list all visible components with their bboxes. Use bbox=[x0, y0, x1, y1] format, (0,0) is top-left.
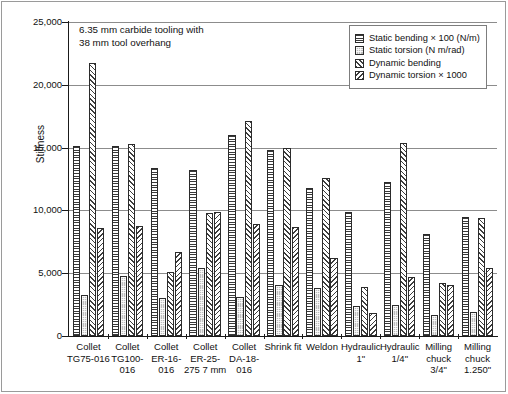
x-axis-tick bbox=[458, 334, 459, 339]
y-axis-tick bbox=[62, 336, 69, 337]
x-axis-tick bbox=[264, 334, 265, 339]
bar-group bbox=[302, 22, 341, 336]
x-axis-category-label-line: chuck bbox=[455, 353, 500, 365]
bar bbox=[462, 217, 469, 336]
bar bbox=[245, 121, 252, 336]
bar bbox=[198, 268, 205, 336]
bar bbox=[431, 315, 438, 336]
x-axis-tick bbox=[341, 334, 342, 339]
chart-legend: Static bending × 100 (N/m)Static torsion… bbox=[349, 25, 487, 89]
bar bbox=[447, 285, 454, 336]
bar-group bbox=[225, 22, 264, 336]
x-axis-tick bbox=[419, 334, 420, 339]
y-axis-tick-label: 20,000 bbox=[33, 80, 62, 90]
y-axis-tick bbox=[62, 85, 69, 86]
chart-annotation: 6.35 mm carbide tooling with 38 mm tool … bbox=[79, 23, 204, 49]
y-axis-tick-label: 15,000 bbox=[33, 143, 62, 153]
bar bbox=[97, 228, 104, 336]
bar bbox=[253, 224, 260, 336]
legend-swatch-forward-diagonal bbox=[355, 59, 364, 68]
legend-item[interactable]: Dynamic torsion × 1000 bbox=[355, 70, 480, 81]
y-axis-tick bbox=[62, 273, 69, 274]
bar bbox=[136, 226, 143, 336]
legend-swatch-horizontal-lines bbox=[355, 34, 364, 43]
bar bbox=[283, 148, 290, 336]
bar bbox=[112, 146, 119, 336]
bar bbox=[81, 295, 88, 336]
x-axis-tick bbox=[186, 334, 187, 339]
bar bbox=[128, 144, 135, 336]
bar-group bbox=[147, 22, 186, 336]
bar bbox=[167, 272, 174, 336]
x-axis-tick bbox=[108, 334, 109, 339]
bar bbox=[236, 297, 243, 336]
bar bbox=[486, 268, 493, 336]
x-axis-category-label: Millingchuck1.250" bbox=[455, 341, 500, 376]
x-axis-tick bbox=[302, 334, 303, 339]
bar bbox=[189, 170, 196, 336]
bar bbox=[361, 287, 368, 336]
bar bbox=[228, 135, 235, 336]
bar bbox=[400, 143, 407, 336]
y-axis-tick-label: 5,000 bbox=[38, 268, 62, 278]
bar bbox=[206, 213, 213, 336]
bar bbox=[478, 218, 485, 336]
bar bbox=[322, 178, 329, 336]
y-axis-tick bbox=[62, 148, 69, 149]
bar-group bbox=[264, 22, 303, 336]
bar bbox=[353, 306, 360, 336]
y-axis-tick-label: 10,000 bbox=[33, 205, 62, 215]
y-axis-tick-label: 25,000 bbox=[33, 17, 62, 27]
bar bbox=[408, 277, 415, 336]
legend-swatch-fine-dots bbox=[355, 46, 364, 55]
bar bbox=[214, 212, 221, 336]
bar bbox=[345, 212, 352, 336]
bar bbox=[267, 150, 274, 336]
bar-group bbox=[108, 22, 147, 336]
legend-swatch-backward-diagonal bbox=[355, 71, 364, 80]
bar-group bbox=[69, 22, 108, 336]
bar bbox=[292, 227, 299, 336]
bar bbox=[470, 312, 477, 336]
bar bbox=[439, 283, 446, 336]
x-axis-category-label-line: 1.250" bbox=[455, 364, 500, 376]
y-axis-tick-labels: 05,00010,00015,00020,00025,000 bbox=[0, 0, 62, 394]
bar bbox=[159, 298, 166, 336]
bar bbox=[306, 188, 313, 336]
bar bbox=[369, 313, 376, 336]
x-axis-tick bbox=[147, 334, 148, 339]
bar bbox=[423, 234, 430, 336]
legend-item-label: Static bending × 100 (N/m) bbox=[369, 33, 480, 44]
x-axis-line bbox=[68, 336, 498, 337]
y-axis-tick bbox=[62, 210, 69, 211]
bar bbox=[89, 63, 96, 336]
legend-item[interactable]: Static bending × 100 (N/m) bbox=[355, 33, 480, 44]
legend-item-label: Dynamic bending bbox=[369, 58, 441, 69]
bar bbox=[330, 258, 337, 336]
bar bbox=[384, 182, 391, 336]
bar bbox=[275, 285, 282, 336]
x-axis-category-label-line: DA-18- bbox=[222, 353, 267, 365]
x-axis-category-label-line: 016 bbox=[222, 364, 267, 376]
bar bbox=[151, 168, 158, 336]
legend-item[interactable]: Static torsion (N m/rad) bbox=[355, 45, 480, 56]
legend-item-label: Dynamic torsion × 1000 bbox=[369, 70, 467, 81]
stiffness-bar-chart: Stiffness 05,00010,00015,00020,00025,000… bbox=[0, 0, 508, 394]
bar bbox=[314, 288, 321, 336]
x-axis-tick bbox=[380, 334, 381, 339]
bar bbox=[73, 146, 80, 336]
x-axis-category-label-line: Milling bbox=[455, 341, 500, 353]
y-axis-tick bbox=[62, 22, 69, 23]
bar-group bbox=[186, 22, 225, 336]
bar bbox=[175, 252, 182, 336]
legend-item-label: Static torsion (N m/rad) bbox=[369, 45, 465, 56]
x-axis-tick bbox=[225, 334, 226, 339]
legend-item[interactable]: Dynamic bending bbox=[355, 58, 480, 69]
bar bbox=[392, 305, 399, 336]
bar bbox=[120, 276, 127, 336]
